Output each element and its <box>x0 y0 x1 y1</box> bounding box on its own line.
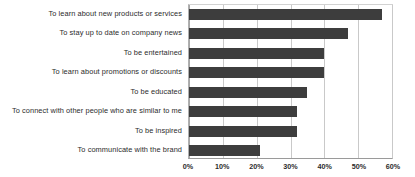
category-label: To be entertained <box>0 47 186 58</box>
bar <box>189 87 307 98</box>
bars-layer <box>189 9 392 156</box>
bar <box>189 145 260 156</box>
category-label: To learn about promotions or discounts <box>0 66 186 77</box>
category-label: To be educated <box>0 86 186 97</box>
axis-tick-label: 20% <box>249 161 263 173</box>
bar <box>189 67 324 78</box>
bar <box>189 106 297 117</box>
category-axis: To learn about new products or services … <box>0 8 186 155</box>
category-label: To communicate with the brand <box>0 144 186 155</box>
bar <box>189 126 297 137</box>
axis-tick-label: 30% <box>283 161 297 173</box>
bar-row <box>189 67 392 78</box>
axis-tick-label: 10% <box>215 161 229 173</box>
bar-row <box>189 126 392 137</box>
axis-tick-label: 0% <box>183 161 193 173</box>
category-label: To stay up to date on company news <box>0 27 186 38</box>
axis-tick-label: 60% <box>386 161 400 173</box>
bar-row <box>189 28 392 39</box>
bar-row <box>189 106 392 117</box>
bar-row <box>189 9 392 20</box>
category-label: To connect with other people who are sim… <box>0 105 186 116</box>
bar-row <box>189 145 392 156</box>
bar-row <box>189 48 392 59</box>
category-label: To learn about new products or services <box>0 8 186 19</box>
bar <box>189 28 348 39</box>
axis-tick-label: 50% <box>352 161 366 173</box>
gridline <box>392 5 393 158</box>
category-label: To be inspired <box>0 125 186 136</box>
bar <box>189 9 382 20</box>
axis-tick-label: 40% <box>317 161 331 173</box>
bar <box>189 48 324 59</box>
bar-chart: To learn about new products or services … <box>0 0 415 177</box>
plot-area <box>188 4 393 159</box>
bar-row <box>189 87 392 98</box>
value-axis: 0%10%20%30%40%50%60% <box>188 161 393 173</box>
